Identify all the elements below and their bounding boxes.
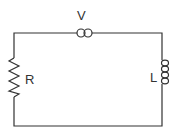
wire-bottom <box>14 84 162 126</box>
circuit-diagram: V R L <box>0 0 180 132</box>
voltage-source-icon <box>77 29 92 37</box>
resistor-icon <box>9 58 19 97</box>
inductor-label: L <box>150 70 157 85</box>
wire-top-right <box>92 33 162 60</box>
inductor-icon <box>162 60 169 84</box>
wire-top-left <box>14 33 77 58</box>
resistor-label: R <box>25 72 34 87</box>
source-label: V <box>77 8 86 23</box>
